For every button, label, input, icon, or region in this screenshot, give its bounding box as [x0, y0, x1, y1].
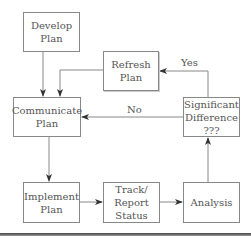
implement-plan-node: Implement Plan	[23, 182, 80, 223]
arrow-refresh-to-communicate	[60, 70, 103, 96]
refresh-plan-node: Refresh Plan	[103, 51, 159, 91]
significant-difference-node: Significant Difference ???	[183, 97, 240, 137]
bottom-rule	[0, 233, 251, 236]
arrow-yes-to-refresh	[160, 71, 208, 97]
yes-label: Yes	[181, 57, 198, 68]
communicate-plan-node: Communicate Plan	[13, 97, 81, 137]
track-report-status-node: Track/ Report Status	[103, 182, 160, 223]
develop-plan-node: Develop Plan	[23, 12, 80, 52]
analysis-node: Analysis	[183, 182, 240, 223]
no-label: No	[127, 104, 142, 115]
